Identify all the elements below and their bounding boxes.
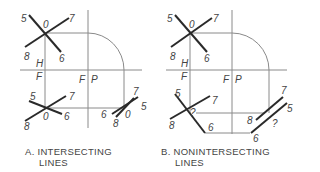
label-6: 6 xyxy=(101,109,107,120)
label-7: 7 xyxy=(69,91,75,102)
label-h: H xyxy=(36,58,44,69)
caption-b-line1: B. NONINTERSECTING xyxy=(161,146,270,157)
label-8: 8 xyxy=(169,120,175,131)
label-7: 7 xyxy=(69,13,75,24)
label-p: P xyxy=(235,74,242,85)
label-8: 8 xyxy=(24,51,30,62)
label-8: 8 xyxy=(247,115,253,126)
caption-b-line2: LINES xyxy=(175,157,204,168)
label-0: 0 xyxy=(43,111,49,122)
label-7: 7 xyxy=(281,85,287,96)
label-f: F xyxy=(36,71,43,82)
label-6: 6 xyxy=(204,53,210,64)
label-7: 7 xyxy=(213,13,219,24)
label-question: ? xyxy=(272,118,278,129)
label-5: 5 xyxy=(30,91,36,102)
label-6: 6 xyxy=(59,53,65,64)
label-6: 6 xyxy=(208,122,214,133)
label-p: P xyxy=(91,74,98,85)
panel-a: 5 0 7 8 6 H F F P 5 7 8 0 6 7 5 6 0 8 xyxy=(20,10,147,132)
label-8: 8 xyxy=(113,118,119,129)
label-f: F xyxy=(223,74,230,85)
label-7: 7 xyxy=(212,95,218,106)
label-f: F xyxy=(79,74,86,85)
label-5: 5 xyxy=(175,88,181,99)
label-6: 6 xyxy=(64,111,70,122)
label-7: 7 xyxy=(133,86,139,97)
label-question: ? xyxy=(190,107,196,118)
label-5: 5 xyxy=(141,101,147,112)
label-6: 6 xyxy=(253,133,259,144)
caption-a-line1: A. INTERSECTING xyxy=(25,146,112,157)
label-0: 0 xyxy=(189,19,195,30)
label-8: 8 xyxy=(24,121,30,132)
caption-a-line2: LINES xyxy=(39,157,68,168)
panel-b: 5 0 7 8 6 H F F P 5 7 8 ? 6 7 5 8 ? 6 xyxy=(166,10,293,144)
label-0: 0 xyxy=(43,19,49,30)
label-5: 5 xyxy=(167,13,173,24)
label-0: 0 xyxy=(125,109,131,120)
label-5: 5 xyxy=(287,103,293,114)
label-f: F xyxy=(181,71,188,82)
label-h: H xyxy=(181,58,189,69)
label-8: 8 xyxy=(170,51,176,62)
label-5: 5 xyxy=(21,13,27,24)
